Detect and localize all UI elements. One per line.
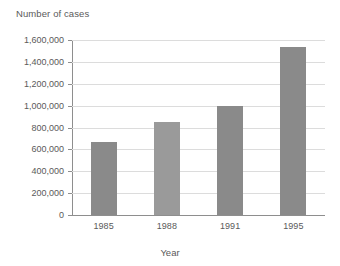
gridline <box>72 40 325 41</box>
y-axis-tick-label: 800,000 <box>0 123 64 133</box>
bar-1991[interactable] <box>217 106 243 215</box>
y-axis-tick-label: 200,000 <box>0 188 64 198</box>
gridline <box>72 215 325 216</box>
x-axis-tick-label: 1991 <box>220 221 240 231</box>
y-axis-tick-label: 1,600,000 <box>0 35 64 45</box>
x-axis-tick-label: 1988 <box>157 221 177 231</box>
bar-1995[interactable] <box>280 47 306 215</box>
bar-chart: Number of cases 1,600,0001,400,0001,200,… <box>0 0 340 266</box>
bar-1985[interactable] <box>91 142 117 215</box>
bar-1988[interactable] <box>154 122 180 215</box>
y-axis-tick-labels: 1,600,0001,400,0001,200,0001,000,000800,… <box>0 0 64 266</box>
y-axis-tick-label: 600,000 <box>0 144 64 154</box>
x-axis-title: Year <box>0 247 340 258</box>
x-axis-tick-label: 1995 <box>283 221 303 231</box>
y-axis-tick-label: 0 <box>0 210 64 220</box>
y-axis-tick-label: 1,000,000 <box>0 101 64 111</box>
x-axis-tick-label: 1985 <box>94 221 114 231</box>
y-axis-tick-label: 1,400,000 <box>0 57 64 67</box>
y-axis-tick-label: 400,000 <box>0 166 64 176</box>
plot-area <box>72 40 325 215</box>
y-axis-tick-label: 1,200,000 <box>0 79 64 89</box>
